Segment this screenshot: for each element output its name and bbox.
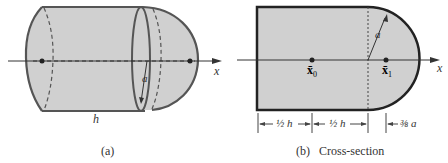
label-a-fig-a: a	[142, 72, 148, 84]
figure-a-solid	[8, 7, 222, 111]
diagram-canvas	[0, 0, 448, 163]
label-a-fig-b: a	[375, 28, 381, 40]
dim-three-eighths-a: ⅜ a	[400, 117, 417, 129]
label-x0: x̄0	[307, 63, 317, 79]
caption-a: (a)	[101, 144, 114, 159]
label-x-fig-a: x	[214, 64, 219, 79]
dim-half-h-2: ½ h	[329, 117, 346, 129]
figure-b-cross-section	[237, 7, 440, 133]
label-x1: x̄1	[382, 63, 392, 79]
dim-half-h-1: ½ h	[276, 117, 293, 129]
caption-b: (b) Cross-section	[296, 144, 384, 159]
label-x-fig-b: x	[437, 61, 442, 76]
label-h: h	[93, 112, 99, 127]
